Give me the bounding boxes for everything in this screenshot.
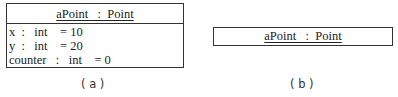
- attribute-y: y : int = 20: [9, 39, 83, 53]
- caption-b: ( b ): [290, 77, 314, 91]
- attribute-counter: counter : int = 0: [9, 53, 111, 67]
- object-title-a: aPoint : Point: [7, 7, 183, 21]
- attribute-x: x : int = 10: [9, 25, 83, 39]
- caption-a: ( a ): [81, 77, 104, 91]
- object-box-a: aPoint : Point x : int = 10 y : int = 20…: [6, 3, 184, 68]
- object-box-b: aPoint : Point: [213, 27, 393, 46]
- object-title-b: aPoint : Point: [214, 29, 392, 43]
- compartment-divider: [7, 23, 183, 24]
